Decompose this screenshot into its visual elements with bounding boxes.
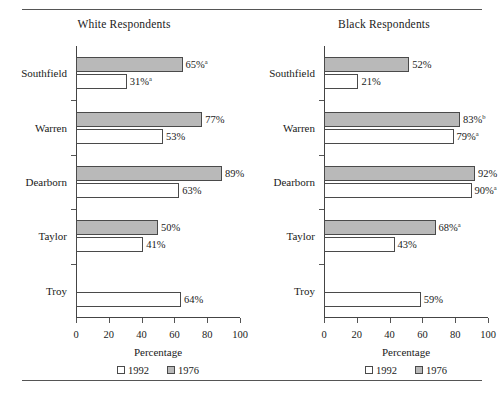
bar-value-label: 89% <box>222 166 244 181</box>
bar-value-label: 53% <box>163 129 185 144</box>
x-axis-tick <box>422 318 423 323</box>
bar-1992-troy <box>324 292 421 307</box>
bar-1992-southfield <box>76 74 127 89</box>
bar-1992-taylor <box>324 237 395 252</box>
y-axis-tick <box>71 264 76 265</box>
bar-value-label: 83%b <box>460 112 486 127</box>
bar-value-label: 68%a <box>436 220 461 235</box>
bar-1992-troy <box>76 292 181 307</box>
y-axis-category-label: Taylor <box>286 230 315 242</box>
y-axis-tick <box>319 100 324 101</box>
bar-value-label: 43% <box>395 237 417 252</box>
bar-1992-taylor <box>76 237 143 252</box>
legend-label-1976: 1976 <box>178 365 199 376</box>
y-axis-category-label: Troy <box>294 285 315 297</box>
bar-value-label: 41% <box>143 237 165 252</box>
x-axis-tick-label: 60 <box>169 329 180 340</box>
figure-rule-bottom <box>22 380 482 381</box>
bar-label-footnote: b <box>482 112 485 119</box>
x-axis-tick-label: 0 <box>73 329 78 340</box>
bar-value-label: 21% <box>358 74 380 89</box>
bar-1992-warren <box>76 129 163 144</box>
panel-title: White Respondents <box>2 18 246 30</box>
bar-value-label: 50% <box>158 220 180 235</box>
x-axis-tick-label: 40 <box>136 329 147 340</box>
bar-1992-southfield <box>324 74 358 89</box>
y-axis-tick <box>71 100 76 101</box>
bar-1976-taylor <box>76 220 158 235</box>
legend-item-1992: 1992 <box>365 365 397 376</box>
x-axis-tick-label: 20 <box>352 329 363 340</box>
y-axis-category-label: Taylor <box>38 230 67 242</box>
legend-item-1992: 1992 <box>117 365 149 376</box>
bar-1976-taylor <box>324 220 436 235</box>
bar-1992-dearborn <box>324 183 472 198</box>
x-axis-tick <box>390 318 391 323</box>
bar-value-label: 52% <box>409 57 431 72</box>
x-axis-tick-label: 0 <box>321 329 326 340</box>
chart-panel-black-respondents: Black Respondents Percentage 19921976 02… <box>256 18 500 376</box>
x-axis-tick-label: 40 <box>384 329 395 340</box>
legend-label-1976: 1976 <box>426 365 447 376</box>
bar-label-footnote: a <box>149 75 152 82</box>
y-axis-category-label: Dearborn <box>25 176 67 188</box>
y-axis-tick <box>71 209 76 210</box>
bar-1976-dearborn <box>76 166 222 181</box>
legend-swatch-1976-icon <box>415 366 423 374</box>
bar-1992-warren <box>324 129 454 144</box>
x-axis-tick <box>455 318 456 323</box>
bar-1992-dearborn <box>76 183 179 198</box>
bar-value-label: 63% <box>179 183 201 198</box>
legend-item-1976: 1976 <box>415 365 447 376</box>
legend-swatch-1992-icon <box>365 366 373 374</box>
plot-area: Percentage 19921976 020406080100Southfie… <box>76 46 240 318</box>
x-axis-tick <box>488 318 489 323</box>
y-axis-category-label: Warren <box>35 122 67 134</box>
y-axis-tick <box>319 209 324 210</box>
x-axis-tick <box>240 318 241 323</box>
panel-title: Black Respondents <box>262 18 504 30</box>
x-axis <box>324 317 488 318</box>
x-axis-tick <box>174 318 175 323</box>
x-axis-tick <box>324 318 325 323</box>
bar-label-footnote: a <box>458 221 461 228</box>
bar-1976-southfield <box>324 57 409 72</box>
bar-value-label: 31%a <box>127 74 152 89</box>
x-axis-tick <box>76 318 77 323</box>
y-axis-category-label: Southfield <box>21 67 67 79</box>
bar-1976-warren <box>324 112 460 127</box>
x-axis-tick <box>142 318 143 323</box>
chart-panel-white-respondents: White Respondents Percentage 19921976 02… <box>8 18 252 376</box>
x-axis-tick <box>109 318 110 323</box>
y-axis-tick <box>319 155 324 156</box>
x-axis-tick-label: 60 <box>417 329 428 340</box>
bar-label-footnote: a <box>476 129 479 136</box>
x-axis-tick <box>357 318 358 323</box>
x-axis-tick-label: 20 <box>104 329 115 340</box>
legend-label-1992: 1992 <box>376 365 397 376</box>
bar-value-label: 59% <box>421 292 443 307</box>
bar-label-footnote: a <box>205 58 208 65</box>
y-axis-category-label: Troy <box>46 285 67 297</box>
x-axis-title: Percentage <box>76 346 240 358</box>
y-axis-tick <box>71 155 76 156</box>
y-axis-category-label: Dearborn <box>273 176 315 188</box>
bar-value-label: 79%a <box>454 129 479 144</box>
x-axis-tick-label: 80 <box>202 329 213 340</box>
bar-label-footnote: a <box>494 184 497 191</box>
legend-item-1976: 1976 <box>167 365 199 376</box>
bar-1976-warren <box>76 112 202 127</box>
x-axis-tick-label: 80 <box>450 329 461 340</box>
legend: 19921976 <box>62 365 254 376</box>
y-axis-category-label: Warren <box>283 122 315 134</box>
legend-swatch-1992-icon <box>117 366 125 374</box>
x-axis-tick <box>207 318 208 323</box>
x-axis-title: Percentage <box>324 346 488 358</box>
legend: 19921976 <box>310 365 502 376</box>
x-axis <box>76 317 240 318</box>
legend-label-1992: 1992 <box>128 365 149 376</box>
y-axis-tick <box>319 264 324 265</box>
x-axis-tick-label: 100 <box>480 329 496 340</box>
bar-1976-southfield <box>76 57 183 72</box>
x-axis-tick-label: 100 <box>232 329 248 340</box>
